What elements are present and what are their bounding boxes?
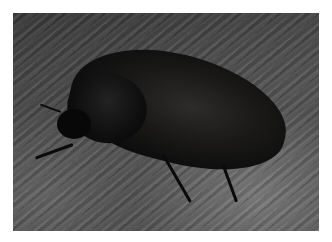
beetle-leg: [222, 164, 238, 203]
beetle-head: [57, 109, 91, 139]
beetle-antenna: [40, 104, 61, 113]
beetle-photo: [13, 13, 319, 231]
beetle-leg: [35, 143, 74, 159]
